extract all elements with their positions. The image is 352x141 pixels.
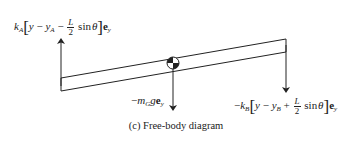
unit-vector-subscript: y — [334, 105, 337, 113]
unit-vector-subscript: y — [161, 100, 164, 108]
gravity-force-label: −mGgey — [131, 95, 164, 106]
unit-vector-subscript: y — [108, 26, 111, 34]
sin-function: sin — [304, 99, 317, 111]
spring-b-force-label: −kB[y − yB + L2 sin θ]ey — [234, 97, 337, 116]
minus-sign: − — [260, 99, 272, 111]
operator: − — [55, 20, 67, 32]
figure-caption: (c) Free-body diagram — [0, 120, 352, 131]
spring-a-force-label: kA[y − yA − L2 sin θ]ey — [14, 18, 111, 37]
fraction-denominator: 2 — [294, 107, 301, 116]
minus-sign: − — [34, 20, 46, 32]
sin-function: sin — [78, 20, 91, 32]
fraction-denominator: 2 — [67, 28, 74, 37]
mass-m: m — [137, 94, 145, 106]
operator: + — [281, 99, 293, 111]
center-of-mass-icon — [167, 57, 179, 69]
fraction-l-over-2: L2 — [294, 97, 301, 116]
fraction-l-over-2: L2 — [67, 18, 74, 37]
